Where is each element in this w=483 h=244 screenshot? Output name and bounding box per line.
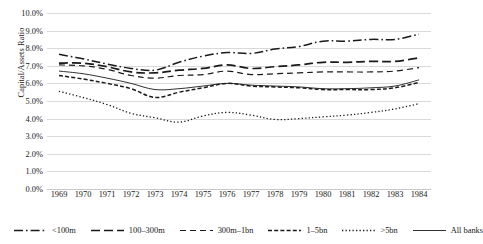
x-axis-tick-label: 1980 — [315, 190, 332, 199]
y-axis-tick-label: 5.0% — [3, 97, 43, 106]
x-axis-tick-label: 1973 — [147, 190, 164, 199]
legend-line-swatch — [268, 226, 301, 235]
legend-line-swatch — [342, 226, 375, 235]
legend-line-swatch — [91, 226, 124, 235]
x-axis-tick-label: 1978 — [267, 190, 284, 199]
legend-label: 100–300m — [129, 226, 165, 235]
y-axis-tick-label: 8.0% — [3, 44, 43, 53]
legend-item[interactable]: 300m–1bn — [180, 226, 254, 235]
x-axis-tick-label: 1983 — [387, 190, 404, 199]
x-axis-tick-label: 1975 — [195, 190, 212, 199]
legend-label: 1–5bn — [306, 226, 327, 235]
y-axis-tick-label: 1.0% — [3, 167, 43, 176]
x-axis-ticks: 1969197019711972197319741975197619771978… — [47, 190, 431, 206]
legend-line-swatch — [180, 226, 213, 235]
legend-line-swatch — [413, 226, 446, 235]
legend-item[interactable]: 1–5bn — [268, 226, 327, 235]
x-axis-tick-label: 1976 — [219, 190, 236, 199]
y-axis-tick-label: 3.0% — [3, 132, 43, 141]
legend-label: >5bn — [380, 226, 397, 235]
series-line — [59, 34, 419, 70]
legend-item[interactable]: 100–300m — [91, 226, 165, 235]
series-line — [59, 75, 419, 97]
y-axis-tick-label: 7.0% — [3, 61, 43, 70]
y-axis-tick-label: 6.0% — [3, 79, 43, 88]
legend-label: All banks — [451, 226, 483, 235]
legend-label: <100m — [52, 226, 76, 235]
legend-label: 300m–1bn — [218, 226, 254, 235]
data-series-lines — [47, 13, 431, 189]
y-axis-tick-label: 10.0% — [3, 9, 43, 18]
y-axis-tick-label: 4.0% — [3, 114, 43, 123]
y-axis-tick-label: 9.0% — [3, 26, 43, 35]
x-axis-tick-label: 1977 — [243, 190, 260, 199]
x-axis-tick-label: 1969 — [51, 190, 68, 199]
legend-item[interactable]: <100m — [14, 226, 76, 235]
legend-item[interactable]: All banks — [413, 226, 483, 235]
series-line — [59, 71, 419, 90]
x-axis-tick-label: 1970 — [75, 190, 92, 199]
legend-item[interactable]: >5bn — [342, 226, 397, 235]
x-axis-tick-label: 1971 — [99, 190, 116, 199]
y-axis-tick-label: 0.0% — [3, 185, 43, 194]
series-line — [59, 91, 419, 122]
plot-area: 0.0%1.0%2.0%3.0%4.0%5.0%6.0%7.0%8.0%9.0%… — [47, 13, 431, 189]
x-axis-tick-label: 1972 — [123, 190, 140, 199]
x-axis-tick-label: 1984 — [411, 190, 428, 199]
x-axis-tick-label: 1982 — [363, 190, 380, 199]
y-axis-tick-label: 2.0% — [3, 149, 43, 158]
x-axis-tick-label: 1979 — [291, 190, 308, 199]
series-line — [59, 65, 419, 78]
chart-legend: <100m100–300m300m–1bn1–5bn>5bnAll banks — [14, 222, 434, 238]
legend-line-swatch — [14, 226, 47, 235]
x-axis-tick-label: 1974 — [171, 190, 188, 199]
x-axis-tick-label: 1981 — [339, 190, 356, 199]
